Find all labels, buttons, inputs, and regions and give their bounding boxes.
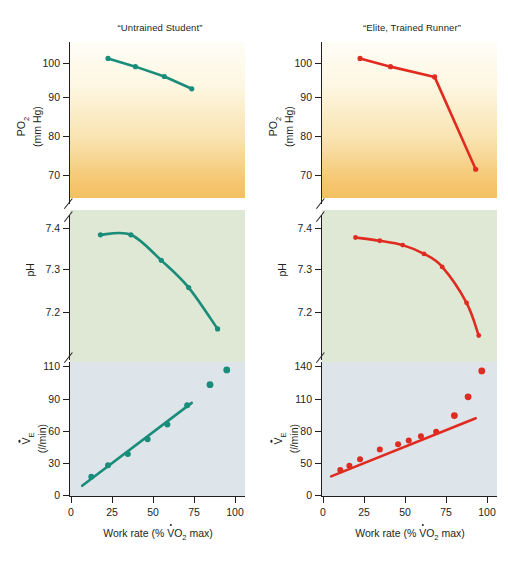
figure-root: “Untrained Student” “Elite, Trained Runn… — [0, 0, 508, 581]
ve-series-elite — [0, 0, 508, 581]
